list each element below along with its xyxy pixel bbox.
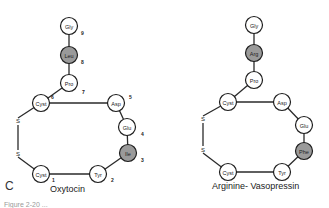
residue-label: Glu	[300, 123, 309, 129]
residue-asp: Asp	[108, 95, 125, 112]
sulfur-label: S	[16, 151, 20, 157]
residue-cyst: Cyst	[220, 164, 237, 181]
residue-label: Arg	[250, 51, 259, 57]
residue-label: Gly	[250, 23, 259, 29]
residue-label: Glu	[123, 125, 132, 131]
sulfur-label: S	[201, 147, 205, 153]
residue-position-number: 4	[141, 131, 144, 137]
sulfur-label: S	[201, 116, 205, 122]
residue-asp: Asp	[274, 94, 291, 111]
figure-caption-partial: Figure 2-20 ...	[4, 201, 48, 208]
residue-cyst: Cyst	[220, 94, 237, 111]
peptide-diagram: GlyLeuProCystAspGluIleTyrCystGlyArgProCy…	[0, 0, 329, 208]
residue-label: Ile	[125, 151, 131, 157]
residue-tyr: Tyr	[90, 166, 107, 183]
residue-label: Cyst	[223, 170, 234, 176]
residue-position-number: 1	[52, 177, 55, 183]
residue-label: Pro	[250, 78, 259, 84]
molecule-title: Oxytocin	[50, 184, 85, 194]
residue-label: Cyst	[223, 100, 234, 106]
residue-position-number: 5	[129, 94, 132, 100]
residue-label: Asp	[111, 101, 120, 107]
residues-layer: GlyLeuProCystAspGluIleTyrCystGlyArgProCy…	[33, 17, 313, 183]
residue-cyst: Cyst	[33, 95, 50, 112]
residue-position-number: 3	[141, 157, 144, 163]
residue-label: Phe	[299, 149, 309, 155]
sulfur-label: S	[16, 118, 20, 124]
residue-label: Tyr	[278, 170, 286, 176]
residue-position-number: 7	[82, 89, 85, 95]
residue-pro: Pro	[61, 75, 78, 92]
residue-glu: Glu	[296, 117, 313, 134]
residue-label: Gly	[65, 24, 74, 30]
residue-tyr: Tyr	[274, 164, 291, 181]
residue-pro: Pro	[246, 72, 263, 89]
molecule-title: Arginine- Vasopressin	[212, 181, 299, 191]
residue-cyst: Cyst	[33, 166, 50, 183]
residue-gly: Gly	[61, 18, 78, 35]
residue-label: Asp	[277, 100, 286, 106]
residue-label: Leu	[64, 53, 73, 59]
residue-position-number: 9	[81, 30, 84, 36]
residue-label: Cyst	[36, 172, 47, 178]
residue-label: Pro	[65, 81, 74, 87]
residue-gly: Gly	[246, 17, 263, 34]
residue-arg: Arg	[246, 45, 263, 62]
residue-ile: Ile	[120, 145, 137, 162]
residue-glu: Glu	[119, 119, 136, 136]
residue-position-number: 6	[51, 94, 54, 100]
residue-phe: Phe	[296, 143, 313, 160]
residue-label: Tyr	[94, 172, 102, 178]
residue-leu: Leu	[61, 47, 78, 64]
residue-position-number: 8	[81, 59, 84, 65]
residue-label: Cyst	[36, 101, 47, 107]
residue-position-number: 2	[111, 177, 114, 183]
panel-label: C	[5, 179, 14, 193]
